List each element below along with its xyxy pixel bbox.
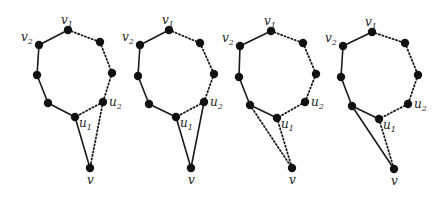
edge-u2-u1 [379,104,408,119]
edge-v1-a [68,30,100,42]
node-u2 [200,98,208,106]
edge-v2-v1 [39,30,68,45]
node-c [246,101,254,109]
label-v1: v1 [264,14,276,30]
node-v [390,165,398,173]
node-v [187,164,195,172]
label-u1: u1 [281,117,294,133]
node-a [299,39,307,47]
edge-u2-u1 [75,102,103,117]
edge-v2-v1 [343,32,372,46]
node-v2 [339,42,347,50]
edge-d-v2 [138,45,140,76]
node-u2 [404,100,412,108]
nodes-layer [33,26,422,173]
label-u2: u2 [414,97,427,113]
label-v1: v1 [61,13,73,29]
node-d [235,73,243,81]
labels-layer: v1u2u1v2vv1u2u1v2vv1u2u1v2vv1u2u1v2v [21,13,427,188]
node-a [401,39,409,47]
label-v: v [188,173,195,187]
edge-d-v2 [37,45,39,75]
edge-u1-c [149,104,176,117]
edge-v1-a [271,31,303,43]
node-b [312,70,320,78]
edge-v1-a [372,32,405,43]
node-d [134,72,142,80]
edge-d-v2 [341,46,343,77]
node-u1 [273,114,281,122]
node-b [414,71,422,79]
edge-c-d [37,75,48,103]
label-v2: v2 [21,30,33,46]
node-u1 [71,113,79,121]
label-v2: v2 [325,31,337,47]
graph-figure: v1u2u1v2vv1u2u1v2vv1u2u1v2vv1u2u1v2v [0,0,447,197]
edges-layer [37,30,418,169]
label-u2: u2 [311,95,324,111]
edge-c-d [239,77,250,105]
label-u1: u1 [79,116,92,132]
label-v: v [391,174,398,188]
label-v2: v2 [122,30,134,46]
edge-v1-a [169,30,200,43]
node-u1 [172,113,180,121]
edge-u2-v [90,102,103,168]
label-u1: u1 [383,118,396,134]
node-v2 [136,41,144,49]
label-u1: u1 [180,116,193,132]
node-v [288,164,296,172]
edge-d-v2 [239,46,240,77]
edge-v2-v1 [140,30,169,45]
node-c [145,100,153,108]
edge-u1-c [48,103,75,117]
label-u2: u2 [210,95,223,111]
edge-a-b [200,43,214,74]
node-b [108,69,116,77]
node-u1 [375,115,383,123]
node-v [86,164,94,172]
node-u2 [99,98,107,106]
label-v1: v1 [162,13,174,29]
node-c [44,99,52,107]
edge-u2-u1 [277,102,305,118]
label-v: v [87,173,94,187]
node-d [337,73,345,81]
node-u2 [301,98,309,106]
edge-u2-u1 [176,102,204,117]
label-v1: v1 [365,15,377,31]
node-d [33,71,41,79]
edge-a-b [100,42,112,73]
label-v: v [289,173,296,187]
edge-a-b [303,43,316,74]
edge-c-d [341,77,352,106]
node-v2 [35,41,43,49]
label-u2: u2 [109,95,122,111]
edge-a-b [405,43,418,75]
edge-c-d [138,76,149,104]
label-v2: v2 [222,31,234,47]
edge-u2-v [191,102,204,168]
edge-v2-v1 [240,31,271,46]
node-a [96,38,104,46]
node-b [210,70,218,78]
node-c [348,102,356,110]
node-a [196,39,204,47]
node-v2 [236,42,244,50]
